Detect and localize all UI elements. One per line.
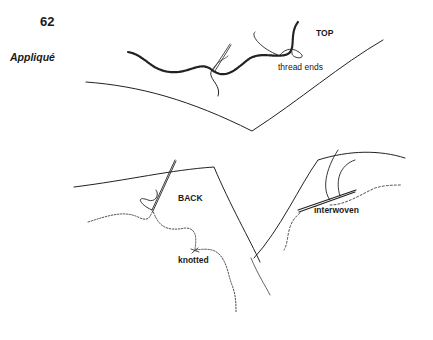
top-couched-thread [128, 22, 298, 74]
label-back: BACK [178, 193, 203, 203]
label-interwoven: interwoven [314, 205, 359, 215]
top-needle [213, 44, 231, 71]
label-knotted: knotted [178, 255, 209, 265]
label-thread-ends: thread ends [278, 62, 323, 72]
back-dotted-thread [88, 211, 236, 312]
label-top: TOP [316, 28, 333, 38]
back-needle [152, 160, 176, 211]
stitching-illustration [0, 0, 433, 340]
thread-ends [254, 32, 302, 58]
